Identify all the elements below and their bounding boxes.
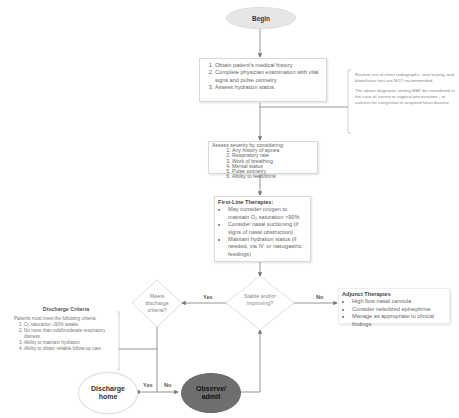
- note-paragraph-1: Routine use of chest radiographs, viral …: [355, 72, 457, 84]
- meets-discharge-decision: Meets discharge criteria?: [139, 293, 175, 314]
- first-line-item: Consider nasal suctioning (if signs of n…: [228, 221, 307, 236]
- stable-improving-decision: Stable and/or improving?: [240, 293, 280, 307]
- severity-assessment-box: Assess severity by considering: Any hist…: [208, 141, 318, 174]
- initial-assessment-box: Obtain patient's medical history Complet…: [199, 58, 327, 102]
- begin-node: Begin: [226, 7, 296, 29]
- adjunct-item: Manage as appropriate to clinical findin…: [352, 313, 446, 328]
- observe-admit-node: Observe/ admit: [181, 373, 241, 413]
- adjunct-therapies-box: Adjunct Therapies High flow nasal cannul…: [338, 288, 450, 324]
- adjunct-item: High flow nasal cannula: [352, 298, 446, 305]
- step1-item: Assess hydration status: [215, 84, 323, 91]
- begin-label: Begin: [252, 15, 270, 22]
- observe-admit-label: Observe/ admit: [193, 385, 229, 402]
- no-label: No: [316, 294, 323, 300]
- diagnostic-testing-note: Routine use of chest radiographs, viral …: [355, 72, 457, 106]
- yes-label: Yes: [203, 294, 213, 300]
- first-line-item: Maintain hydration status (if needed, vi…: [228, 236, 307, 258]
- step1-item: Obtain patient's medical history: [215, 62, 323, 69]
- adjunct-title: Adjunct Therapies: [342, 291, 391, 297]
- discharge-home-node: Discharge home: [78, 372, 138, 414]
- step1-item: Complete physician examination with vita…: [215, 69, 323, 84]
- criteria-item: No more than mild/moderate respiratory d…: [24, 328, 118, 340]
- discharge-criteria-title: Discharge Criteria: [14, 306, 118, 312]
- discharge-home-label: Discharge home: [88, 385, 128, 402]
- criteria-item: Ability to obtain reliable follow-up car…: [24, 346, 118, 352]
- note-paragraph-2: The above diagnostic testing MAY be cons…: [355, 88, 457, 106]
- adjunct-item: Consider nebulized epinephrine: [352, 306, 446, 313]
- discharge-criteria-panel: Discharge Criteria Patients must meet th…: [14, 306, 118, 352]
- yes-label-bottom: Yes: [143, 382, 153, 388]
- first-line-item: May consider oxygen to maintain O₂ satur…: [228, 206, 307, 221]
- first-line-title: First-Line Therapies:: [218, 199, 273, 205]
- first-line-therapies-box: First-Line Therapies: May consider oxyge…: [214, 196, 311, 262]
- no-label-bottom: No: [164, 382, 171, 388]
- severity-item: Ability to feed/drink: [232, 174, 314, 179]
